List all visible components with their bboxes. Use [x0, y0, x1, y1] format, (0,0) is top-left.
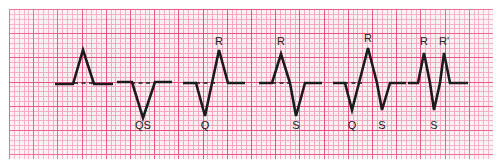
- complex-5-qrs-wave-label-1: Q: [348, 119, 357, 131]
- complex-5-qrs-wave-label-0: R: [364, 32, 372, 44]
- complex-3-qr-wave-label-0: R: [215, 35, 223, 47]
- ecg-trace-layer: QSRQRSRQSRR'S: [0, 0, 502, 166]
- complex-6-rsr-prime-wave-label-0: R: [420, 35, 428, 47]
- complex-6-rsr-prime-wave-label-2: S: [430, 119, 437, 131]
- complex-2-qs-wave-label-0: QS: [135, 119, 151, 131]
- complex-5-qrs-wave: [333, 48, 406, 110]
- complex-5-qrs-wave-label-2: S: [378, 119, 385, 131]
- complex-4-rs-wave-label-0: R: [277, 35, 285, 47]
- complex-6-rsr-prime-wave: [408, 53, 468, 110]
- complex-6-rsr-prime-wave-label-1: R': [439, 35, 449, 47]
- complex-1-r-wave: [55, 50, 113, 84]
- complex-4-rs-wave-label-1: S: [292, 119, 299, 131]
- complex-3-qr-wave-label-1: Q: [201, 119, 210, 131]
- ecg-morphology-figure: QSRQRSRQSRR'S: [0, 0, 502, 166]
- complex-4-rs-wave: [259, 54, 322, 116]
- complex-2-qs-wave: [117, 82, 172, 118]
